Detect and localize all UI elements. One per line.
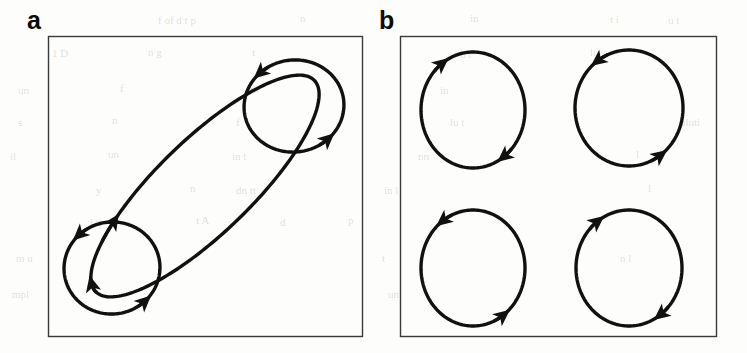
curve-direction-arrow-1 — [597, 55, 606, 61]
figure-container: f of d t pnint iu t1 Dn gtu tluunfthinsn… — [0, 0, 747, 353]
panel-label-a: a — [27, 8, 41, 33]
figure-svg — [0, 0, 747, 353]
curve-direction-arrow-2 — [495, 315, 504, 321]
curve-direction-arrow-2 — [504, 149, 512, 157]
curve-a-large-tilted-ellipse — [91, 75, 319, 297]
panel-curves — [64, 50, 683, 326]
curve-a-upper-right-circle — [244, 60, 344, 152]
curve-direction-arrow-2 — [320, 139, 328, 145]
curve-b-bottom-right-circle — [576, 210, 682, 326]
panel-label-b: b — [379, 8, 394, 33]
curve-direction-arrow-1 — [590, 221, 598, 229]
curve-b-bottom-left-circle — [421, 210, 525, 326]
curve-b-top-right-circle — [575, 50, 683, 166]
curve-direction-arrow-2 — [138, 301, 146, 307]
curve-direction-arrow-1 — [260, 67, 268, 73]
curve-direction-arrow-1 — [79, 229, 87, 235]
panel-border-b — [401, 37, 717, 337]
curve-direction-arrow-1 — [442, 215, 451, 221]
curve-direction-arrow-1 — [91, 283, 96, 292]
curve-direction-arrow-2 — [651, 155, 660, 161]
curve-direction-arrow-1 — [435, 63, 443, 71]
curve-a-lower-left-circle — [64, 222, 160, 314]
curve-outline — [575, 50, 683, 166]
panel-boxes — [49, 37, 717, 337]
curve-b-top-left-circle — [421, 52, 525, 168]
curve-outline — [91, 75, 319, 297]
curve-direction-arrow-2 — [660, 307, 668, 315]
curve-outline — [421, 210, 525, 326]
